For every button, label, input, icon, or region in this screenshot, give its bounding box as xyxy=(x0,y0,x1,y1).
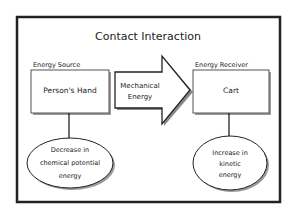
receiver-box-text: Cart xyxy=(223,86,239,95)
source-label: Energy Source xyxy=(33,61,80,69)
transfer-line-2: Energy xyxy=(128,93,153,101)
receiver-effect-line-3: energy xyxy=(219,171,242,179)
diagram-canvas: Contact Interaction Energy Source Person… xyxy=(0,0,293,209)
receiver-label: Energy Receiver xyxy=(195,61,248,69)
source-effect-line-1: Decrease in xyxy=(51,146,89,154)
transfer-line-1: Mechanical xyxy=(120,82,159,90)
receiver-effect-line-2: kinetic xyxy=(219,160,241,168)
source-effect-line-2: chemical potential xyxy=(40,159,100,167)
receiver-effect-line-1: Increase in xyxy=(212,149,248,157)
diagram-title: Contact Interaction xyxy=(95,30,201,43)
source-box-text: Person's Hand xyxy=(43,86,97,95)
source-effect-line-3: energy xyxy=(59,172,82,180)
